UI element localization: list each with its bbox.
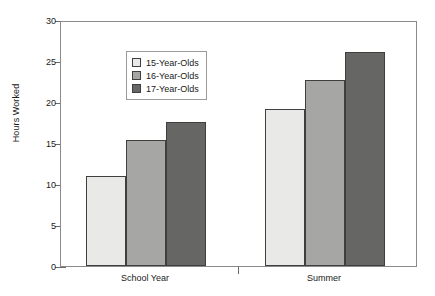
x-axis-center-tick	[238, 267, 239, 274]
legend-swatch-icon	[132, 58, 141, 67]
legend-item-label: 16-Year-Olds	[146, 71, 199, 81]
legend-item: 16-Year-Olds	[132, 69, 199, 82]
bar	[166, 122, 206, 266]
x-axis-group-label: Summer	[307, 273, 341, 283]
y-axis-tick-label: 15	[16, 139, 56, 149]
plot-area: 15-Year-Olds16-Year-Olds17-Year-Olds	[60, 21, 417, 267]
y-axis-title: Hours Worked	[11, 53, 21, 173]
bar	[345, 52, 385, 266]
bar-chart: Hours Worked 302520151050 15-Year-Olds16…	[0, 0, 435, 296]
bar	[265, 109, 305, 266]
legend-swatch-icon	[132, 71, 141, 80]
legend-swatch-icon	[132, 84, 141, 93]
y-axis-tick-mark	[55, 267, 66, 268]
y-axis-tick-label: 30	[16, 16, 56, 26]
y-axis-tick-label: 10	[16, 180, 56, 190]
legend-item-label: 17-Year-Olds	[146, 84, 199, 94]
legend-item: 15-Year-Olds	[132, 56, 199, 69]
legend-item: 17-Year-Olds	[132, 82, 199, 95]
y-axis-tick-label: 25	[16, 57, 56, 67]
y-axis-tick-label: 5	[16, 221, 56, 231]
chart-legend: 15-Year-Olds16-Year-Olds17-Year-Olds	[126, 51, 207, 100]
bar	[305, 80, 345, 266]
x-axis-group-label: School Year	[121, 273, 169, 283]
y-axis-tick-label: 20	[16, 98, 56, 108]
bar	[86, 176, 126, 266]
y-axis-tick-label: 0	[16, 262, 56, 272]
legend-item-label: 15-Year-Olds	[146, 58, 199, 68]
bar	[126, 140, 166, 266]
